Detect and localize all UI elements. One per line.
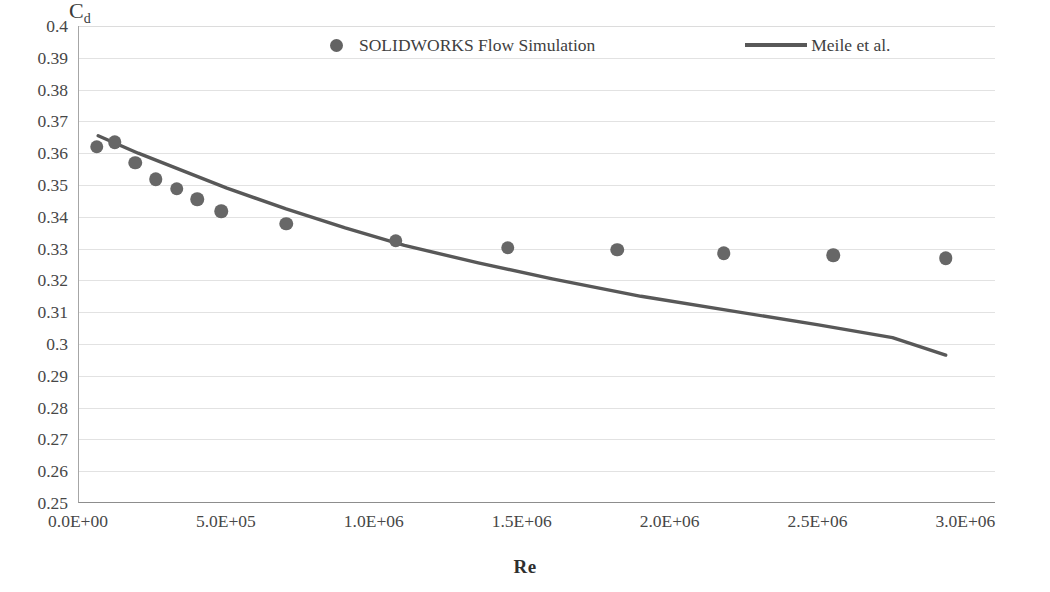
- y-axis-tick-label: 0.37: [37, 112, 68, 130]
- y-axis-title-base: C: [69, 0, 84, 23]
- data-point-marker: [501, 241, 515, 255]
- y-axis-tick-label: 0.29: [37, 367, 68, 385]
- x-axis-tick-label: 5.0E+05: [196, 512, 256, 530]
- y-axis-tick-label: 0.38: [37, 81, 68, 99]
- legend-entry-meile: Meile et al.: [745, 36, 890, 54]
- plot-area: [78, 26, 995, 503]
- y-axis-tick-label: 0.4: [46, 17, 68, 35]
- x-axis-title: Re: [0, 556, 1050, 578]
- y-axis-tick-label: 0.27: [37, 430, 68, 448]
- data-point-marker: [827, 248, 841, 262]
- x-axis-tick-label: 2.0E+06: [640, 512, 700, 530]
- chart-container: Cd 0.250.260.270.280.290.30.310.320.330.…: [0, 0, 1050, 592]
- legend-label-solidworks: SOLIDWORKS Flow Simulation: [359, 36, 595, 54]
- x-axis-tick-label: 1.5E+06: [492, 512, 552, 530]
- y-axis-tick-label: 0.31: [37, 303, 68, 321]
- y-axis-tick-label: 0.35: [37, 176, 68, 194]
- data-point-marker: [611, 243, 625, 257]
- y-axis-tick-label: 0.34: [37, 208, 68, 226]
- data-point-marker: [108, 135, 122, 149]
- x-axis-tick-labels: 0.0E+005.0E+051.0E+061.5E+062.0E+062.5E+…: [0, 512, 1050, 552]
- y-axis-tick-label: 0.33: [37, 240, 68, 258]
- data-point-marker: [717, 247, 731, 261]
- y-axis-tick-label: 0.28: [37, 399, 68, 417]
- legend-label-meile: Meile et al.: [811, 36, 890, 54]
- y-axis-tick-label: 0.36: [37, 144, 68, 162]
- x-axis-tick-label: 2.5E+06: [788, 512, 848, 530]
- line-marker-icon: [745, 43, 807, 47]
- data-point-marker: [279, 217, 293, 231]
- data-point-marker: [389, 234, 403, 248]
- data-point-marker: [128, 156, 142, 170]
- data-point-marker: [90, 140, 104, 154]
- data-point-marker: [191, 193, 205, 207]
- y-axis-title-subscript: d: [84, 11, 91, 26]
- x-axis-tick-label: 0.0E+00: [48, 512, 108, 530]
- legend: SOLIDWORKS Flow Simulation Meile et al.: [330, 32, 970, 58]
- y-axis-tick-label: 0.26: [37, 462, 68, 480]
- y-axis-tick-label: 0.39: [37, 49, 68, 67]
- meile-curve: [79, 26, 996, 503]
- data-point-marker: [214, 204, 228, 218]
- y-axis-tick-label: 0.25: [37, 494, 68, 512]
- data-point-marker: [149, 173, 163, 187]
- x-axis-tick-label: 1.0E+06: [344, 512, 404, 530]
- y-axis-tick-label: 0.32: [37, 271, 68, 289]
- x-axis-tick-label: 3.0E+06: [935, 512, 995, 530]
- data-point-marker: [170, 182, 184, 196]
- legend-entry-solidworks: SOLIDWORKS Flow Simulation: [330, 36, 595, 54]
- data-point-marker: [939, 251, 953, 265]
- y-axis-tick-label: 0.3: [46, 335, 68, 353]
- circle-marker-icon: [330, 39, 343, 52]
